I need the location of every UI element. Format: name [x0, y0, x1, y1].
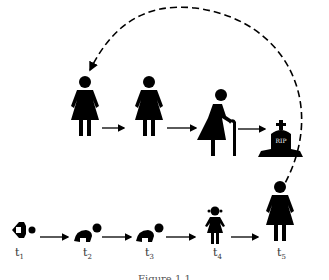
stage-label-t1: t1 [15, 246, 24, 261]
life-cycle-diagram: RIP [0, 0, 329, 280]
crawling-baby-icon [136, 224, 164, 243]
woman-icon [135, 76, 163, 136]
cycle-dashed-arrow [90, 7, 302, 192]
woman-icon [71, 76, 99, 136]
girl-icon [205, 207, 225, 245]
crawling-baby-icon [74, 224, 102, 243]
swaddled-baby-icon [12, 222, 36, 238]
svg-text:RIP: RIP [276, 137, 287, 144]
stage-label-t3: t3 [145, 246, 154, 261]
figure-caption: Figure 1.1 [0, 272, 329, 280]
tombstone-icon: RIP [258, 120, 303, 157]
stage-label-t2: t2 [83, 246, 92, 261]
stage-label-t4: t4 [213, 246, 222, 261]
stage-label-t5: t5 [277, 246, 286, 261]
elderly-woman-with-cane-icon [197, 89, 236, 156]
woman-icon [266, 181, 294, 241]
